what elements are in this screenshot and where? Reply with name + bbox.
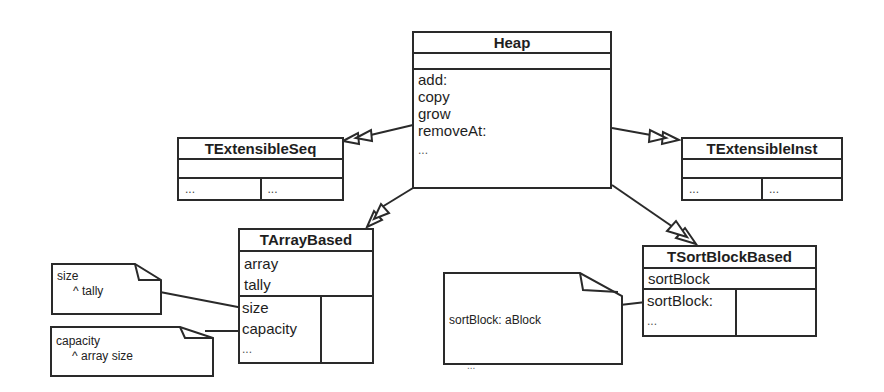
class-textensible-seq[interactable]: TExtensibleSeq ... ... <box>177 137 344 201</box>
note-line: ^ tally <box>57 284 103 299</box>
method: size <box>242 297 320 318</box>
required-methods: ... <box>260 179 343 199</box>
note-line: size <box>57 269 103 284</box>
instance-vars-section <box>179 160 342 179</box>
note-line: ... <box>449 358 573 373</box>
methods-section: add: copy grow removeAt: ... <box>414 70 610 161</box>
methods-row: ... ... <box>179 179 342 199</box>
method-ellipsis: ... <box>647 311 735 332</box>
method-ellipsis: ... <box>418 139 610 161</box>
instance-vars-section: sortBlock <box>644 269 815 290</box>
class-title: Heap <box>414 33 610 54</box>
method: sortBlock: <box>647 290 735 311</box>
note-line: ^ array size <box>56 349 133 364</box>
method: copy <box>418 88 610 105</box>
class-tarray-based[interactable]: TArrayBased array tally size capacity ..… <box>238 228 374 364</box>
method: grow <box>418 105 610 122</box>
instance-var: sortBlock <box>648 269 815 288</box>
note-text: sortBlock: aBlock ... sortBlock := aBloc… <box>449 283 573 392</box>
provided-methods: ... <box>179 179 260 199</box>
instance-vars-section <box>683 160 841 179</box>
provided-methods: sortBlock: ... <box>644 290 735 335</box>
instance-vars-section: array tally <box>240 252 372 297</box>
methods-row: sortBlock: ... <box>644 290 815 335</box>
note-size: size^ tally <box>51 263 163 315</box>
required-methods: ... <box>761 179 841 199</box>
class-title: TArrayBased <box>240 230 372 252</box>
methods-row: size capacity ... <box>240 297 372 363</box>
required-methods <box>735 290 815 335</box>
note-text: size^ tally <box>57 269 103 299</box>
class-title: TExtensibleSeq <box>179 139 342 160</box>
note-capacity: capacity^ array size <box>50 326 215 377</box>
class-tsortblock-based[interactable]: TSortBlockBased sortBlock sortBlock: ... <box>642 245 817 337</box>
note-text: capacity^ array size <box>56 334 133 364</box>
class-textensible-inst[interactable]: TExtensibleInst ... ... <box>681 137 843 201</box>
class-heap[interactable]: Heap add: copy grow removeAt: ... <box>412 31 612 189</box>
note-line: sortBlock: aBlock <box>449 313 573 328</box>
class-title: TSortBlockBased <box>644 247 815 269</box>
method-ellipsis: ... <box>242 339 320 360</box>
instance-vars-section <box>414 54 610 70</box>
required-methods <box>320 297 372 363</box>
instance-var: array <box>244 253 372 274</box>
methods-row: ... ... <box>683 179 841 199</box>
method: add: <box>418 71 610 88</box>
note-line: capacity <box>56 334 133 349</box>
provided-methods: size capacity ... <box>240 297 320 363</box>
provided-methods: ... <box>683 179 761 199</box>
note-sortblock: sortBlock: aBlock ... sortBlock := aBloc… <box>443 272 624 365</box>
method: removeAt: <box>418 122 610 139</box>
class-title: TExtensibleInst <box>683 139 841 160</box>
instance-var: tally <box>244 274 372 295</box>
method: capacity <box>242 318 320 339</box>
